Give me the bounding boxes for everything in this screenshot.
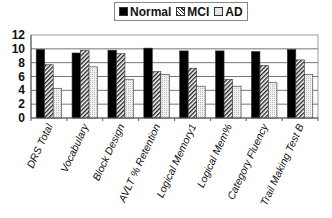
bar-normal [72, 53, 81, 118]
bar-chart: 024681012 DRS TotalVocabularyBlock Desig… [0, 0, 332, 218]
y-tick-label: 10 [12, 42, 26, 56]
y-tick-label: 0 [18, 111, 25, 125]
bar-normal [251, 52, 260, 118]
bar-normal [180, 51, 189, 118]
y-tick-label: 2 [18, 97, 25, 111]
bar-ad [268, 83, 277, 118]
x-tick-label: Vocabulary [58, 121, 91, 174]
bar-mci [260, 65, 269, 118]
x-tick-label: DRS Total [24, 121, 55, 170]
x-tick-label: Logical Memory1 [154, 122, 199, 200]
bar-mci [45, 65, 54, 118]
bar-normal [36, 50, 45, 118]
y-tick-label: 4 [18, 83, 25, 97]
bar-normal [216, 51, 225, 118]
bar-mci [188, 68, 197, 118]
bar-ad [197, 86, 206, 118]
bar-ad [89, 67, 98, 118]
bar-mci [296, 60, 305, 118]
y-tick-label: 6 [18, 70, 25, 84]
y-tick-labels: 024681012 [12, 28, 26, 125]
bar-ad [53, 88, 62, 118]
bar-normal [144, 48, 153, 118]
bar-normal [108, 50, 117, 118]
bar-mci [152, 72, 161, 118]
bar-ad [304, 74, 313, 118]
y-tick-label: 8 [18, 56, 25, 70]
x-tick-label: Block Design [90, 122, 127, 183]
bar-ad [125, 79, 134, 118]
bar-mci [116, 54, 125, 118]
bar-ad [161, 74, 170, 118]
bar-normal [287, 50, 296, 118]
x-tick-label: Logical Mem% [194, 122, 234, 189]
y-tick-label: 12 [12, 28, 26, 42]
x-tick-labels: DRS TotalVocabularyBlock DesignAVLT % Re… [24, 121, 306, 207]
bar-mci [81, 50, 90, 118]
bar-ad [233, 86, 242, 118]
bar-mci [224, 79, 233, 118]
